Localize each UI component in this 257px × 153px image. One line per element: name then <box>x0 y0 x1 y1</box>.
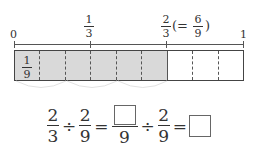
tape-segment <box>91 51 116 80</box>
equals-sign: = <box>94 116 108 136</box>
numerator: 2 <box>158 106 169 124</box>
denominator: 9 <box>119 128 130 146</box>
number-line <box>14 44 244 45</box>
equiv-close-paren: ) <box>205 16 210 36</box>
label-two-thirds: 2 3 <box>161 14 171 39</box>
numerator: 1 <box>86 14 93 25</box>
answer-box[interactable] <box>189 115 211 137</box>
denominator: 9 <box>158 127 169 145</box>
tape-segment <box>219 51 243 80</box>
grouping-arcs <box>14 80 174 94</box>
equals-sign: = <box>173 116 187 136</box>
tape-segment <box>66 51 91 80</box>
tape-segment <box>193 51 218 80</box>
label-one: 1 <box>240 29 247 40</box>
label-zero: 0 <box>10 29 17 40</box>
numerator: 2 <box>80 106 91 124</box>
tape-segment <box>142 51 167 80</box>
fraction-two-thirds: 2 3 <box>47 106 59 145</box>
label-six-ninths: 6 9 <box>193 14 203 39</box>
label-one-third: 1 3 <box>84 14 94 39</box>
numerator: 2 <box>163 14 170 25</box>
denominator: 9 <box>195 28 202 39</box>
denominator: 9 <box>80 127 91 145</box>
denominator: 9 <box>24 69 31 80</box>
division-equation: 2 3 ÷ 2 9 = 9 ÷ 2 9 = <box>46 105 211 146</box>
divide-sign: ÷ <box>62 116 76 136</box>
fraction-two-ninths: 2 9 <box>158 106 170 145</box>
divide-sign: ÷ <box>141 116 155 136</box>
numerator: 2 <box>48 106 59 124</box>
numerator: 6 <box>195 14 202 25</box>
label-one-ninth: 1 9 <box>22 55 32 80</box>
denominator: 3 <box>163 28 170 39</box>
tick-two-thirds <box>166 41 167 48</box>
fraction-blank-ninths: 9 <box>112 105 138 146</box>
tape-diagram: 1 9 <box>14 50 244 81</box>
numerator: 1 <box>24 55 31 66</box>
denominator: 3 <box>48 127 59 145</box>
equiv-open-paren: (= <box>172 16 188 36</box>
tick-one <box>243 41 244 48</box>
tape-segment <box>168 51 193 80</box>
tick-zero <box>14 41 15 48</box>
numerator-answer-box[interactable] <box>114 105 136 125</box>
tape-segment <box>117 51 142 80</box>
fraction-two-ninths: 2 9 <box>79 106 91 145</box>
tape-segment: 1 9 <box>15 51 40 80</box>
tick-one-third <box>90 41 91 48</box>
tape-segment <box>40 51 65 80</box>
denominator: 3 <box>86 28 93 39</box>
